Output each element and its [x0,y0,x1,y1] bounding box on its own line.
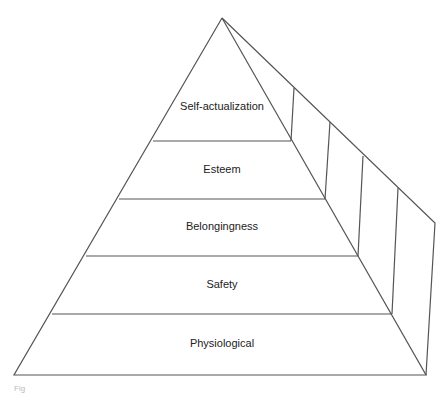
level-self-actualization: Self-actualization [180,100,264,112]
level-esteem: Esteem [203,163,240,175]
figure-caption: Fig [14,384,25,393]
level-belongingness: Belongingness [186,220,258,232]
pyramid-diagram [0,0,448,395]
level-safety: Safety [206,278,237,290]
level-physiological: Physiological [190,337,254,349]
